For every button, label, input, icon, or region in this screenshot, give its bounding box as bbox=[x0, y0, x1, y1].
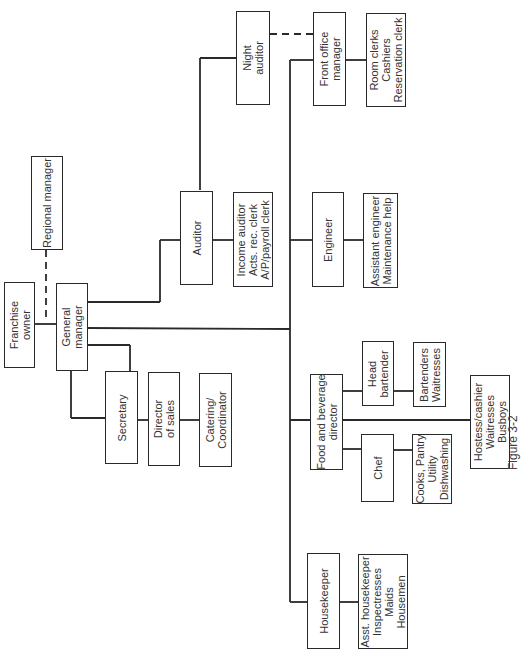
node-chef: Chef bbox=[361, 434, 394, 502]
node-front-office-staff: Room clerks Cashiers Reservation clerk bbox=[366, 13, 406, 107]
node-food-beverage-director: Food and beverage director bbox=[310, 374, 343, 470]
node-general-manager: General manager bbox=[56, 283, 88, 371]
node-housekeeper: Housekeeper bbox=[307, 553, 340, 649]
node-housekeeping-staff: Asst. housekeeper Inspectresses Maids Ho… bbox=[358, 554, 408, 649]
node-franchise-owner: Franchise owner bbox=[4, 282, 35, 368]
node-catering-coordinator: Catering/ Coordinator bbox=[199, 373, 232, 467]
figure-caption: Figure 3-2 bbox=[506, 415, 520, 470]
node-secretary: Secretary bbox=[105, 371, 138, 464]
node-bar-staff: Bartenders Waitresses bbox=[413, 342, 446, 407]
node-night-auditor: Night auditor bbox=[236, 11, 270, 105]
node-head-bartender: Head bartender bbox=[362, 341, 394, 406]
node-auditor-staff: Income auditor Acts. rec. clerk A/P/payr… bbox=[233, 192, 273, 287]
node-dining-staff: Hostess/cashier Waitresses Busboys bbox=[470, 375, 510, 469]
node-regional-manager: Regional manager bbox=[31, 156, 63, 250]
node-front-office-manager: Front office manager bbox=[313, 12, 346, 106]
node-engineer: Engineer bbox=[312, 192, 344, 287]
node-kitchen-staff: Cooks, Pantry Utility Dishwashing bbox=[412, 434, 452, 504]
node-engineer-staff: Assistant engineer Maintenance help bbox=[363, 193, 398, 288]
node-auditor: Auditor bbox=[180, 191, 213, 285]
node-director-of-sales: Director of sales bbox=[148, 372, 180, 466]
